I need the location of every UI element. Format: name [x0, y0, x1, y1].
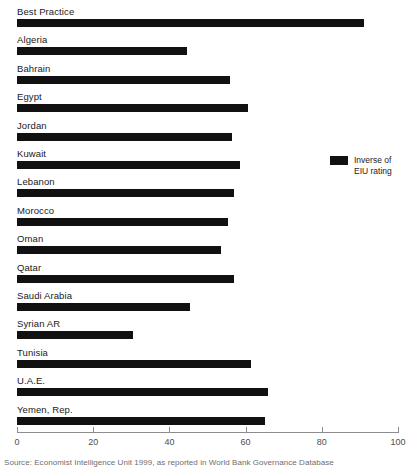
- bar-category-label: Kuwait: [17, 148, 46, 159]
- bar-value: [17, 189, 234, 197]
- bar-track: [17, 275, 398, 283]
- bar-category-label: Lebanon: [17, 176, 55, 187]
- bar-group: Bahrain: [0, 63, 417, 89]
- bar-value: [17, 133, 232, 141]
- bar-value: [17, 104, 248, 112]
- bar-group: Qatar: [0, 262, 417, 288]
- x-axis-tick-label: 0: [14, 437, 19, 447]
- chart-legend: Inverse of EIU rating: [330, 155, 392, 176]
- bar-value: [17, 246, 221, 254]
- bar-group: Yemen, Rep.: [0, 404, 417, 430]
- bar-value: [17, 331, 133, 339]
- bar-group: Algeria: [0, 34, 417, 60]
- bar-value: [17, 417, 265, 425]
- bar-value: [17, 275, 234, 283]
- x-axis-tick: [322, 427, 323, 432]
- bar-track: [17, 19, 398, 27]
- bar-chart: Best PracticeAlgeriaBahrainEgyptJordanKu…: [0, 0, 417, 474]
- legend-swatch-inverse-eiu-rating: [330, 156, 348, 165]
- bar-track: [17, 104, 398, 112]
- x-axis-tick-label: 100: [390, 437, 405, 447]
- x-axis-tick-label: 80: [317, 437, 327, 447]
- bar-value: [17, 303, 190, 311]
- bar-category-label: Saudi Arabia: [17, 290, 72, 301]
- x-axis-tick-label: 40: [164, 437, 174, 447]
- source-caption: Source: Economist Intelligence Unit 1999…: [4, 458, 334, 467]
- bar-category-label: Bahrain: [17, 63, 50, 74]
- bar-track: [17, 133, 398, 141]
- legend-label-inverse-eiu-rating: Inverse of EIU rating: [354, 155, 392, 176]
- bar-group: Oman: [0, 233, 417, 259]
- bar-track: [17, 246, 398, 254]
- bar-category-label: Egypt: [17, 91, 42, 102]
- plot-area: Best PracticeAlgeriaBahrainEgyptJordanKu…: [0, 6, 417, 432]
- bar-group: U.A.E.: [0, 375, 417, 401]
- x-axis-tick: [93, 427, 94, 432]
- bar-track: [17, 47, 398, 55]
- bar-category-label: Yemen, Rep.: [17, 404, 73, 415]
- bar-track: [17, 417, 398, 425]
- bar-category-label: Oman: [17, 233, 43, 244]
- bar-category-label: Morocco: [17, 205, 54, 216]
- bar-category-label: Best Practice: [17, 6, 74, 17]
- bar-group: Saudi Arabia: [0, 290, 417, 316]
- bar-track: [17, 218, 398, 226]
- x-axis-tick: [169, 427, 170, 432]
- bar-category-label: Qatar: [17, 262, 41, 273]
- bar-value: [17, 360, 251, 368]
- x-axis-tick: [17, 427, 18, 432]
- bar-value: [17, 161, 240, 169]
- bar-value: [17, 19, 364, 27]
- x-axis-line: [17, 432, 399, 433]
- bar-category-label: Algeria: [17, 34, 47, 45]
- bar-value: [17, 218, 228, 226]
- bar-track: [17, 388, 398, 396]
- legend-label-line-2: EIU rating: [354, 166, 392, 177]
- bar-category-label: Jordan: [17, 120, 47, 131]
- bar-value: [17, 47, 187, 55]
- bar-group: Tunisia: [0, 347, 417, 373]
- bar-group: Jordan: [0, 120, 417, 146]
- bar-category-label: Syrian AR: [17, 318, 60, 329]
- bar-group: Syrian AR: [0, 318, 417, 344]
- bar-track: [17, 76, 398, 84]
- x-axis-tick-label: 60: [241, 437, 251, 447]
- x-axis-tick: [398, 427, 399, 432]
- legend-label-line-1: Inverse of: [354, 155, 392, 166]
- bar-track: [17, 189, 398, 197]
- bar-group: Egypt: [0, 91, 417, 117]
- bar-track: [17, 331, 398, 339]
- bar-track: [17, 303, 398, 311]
- bar-track: [17, 360, 398, 368]
- bar-category-label: Tunisia: [17, 347, 48, 358]
- bar-category-label: U.A.E.: [17, 375, 45, 386]
- bar-value: [17, 76, 230, 84]
- bar-value: [17, 388, 268, 396]
- bar-group: Best Practice: [0, 6, 417, 32]
- x-axis-tick-label: 20: [88, 437, 98, 447]
- bar-group: Lebanon: [0, 176, 417, 202]
- x-axis-tick: [246, 427, 247, 432]
- bar-group: Morocco: [0, 205, 417, 231]
